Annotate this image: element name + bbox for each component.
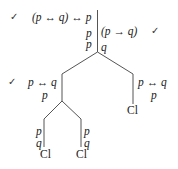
subbranch-left-line xyxy=(44,101,62,119)
check-icon: ✓ xyxy=(10,11,18,23)
root-formula-4: (p → q) xyxy=(101,25,137,37)
root-formula-3: p xyxy=(86,38,92,50)
left-formula-2: p xyxy=(42,89,48,101)
closed-marker-right: Cl xyxy=(127,104,138,116)
check-icon: ✓ xyxy=(8,76,16,88)
closed-marker-lr: Cl xyxy=(76,148,87,160)
branch-right-line xyxy=(98,52,134,74)
left-formula-1: p ↔ q xyxy=(28,76,57,88)
right-formula-1: p ↔ q xyxy=(138,76,167,88)
right-formula-2: p xyxy=(151,89,157,101)
ll-formula-1: p xyxy=(36,125,42,137)
branch-left-line xyxy=(62,52,98,74)
root-formula-1: (p ↔ q) ↔ p xyxy=(32,11,91,23)
closed-marker-ll: Cl xyxy=(40,148,51,160)
lr-formula-1: p xyxy=(84,125,90,137)
root-formula-5: q xyxy=(101,41,107,53)
check-icon: ✓ xyxy=(151,25,159,37)
subbranch-right-line xyxy=(62,101,81,119)
